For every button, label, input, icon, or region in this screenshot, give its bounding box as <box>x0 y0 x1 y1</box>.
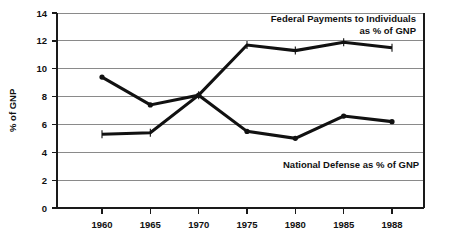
x-tick-label-1980: 1980 <box>285 219 306 230</box>
series-national-defense <box>99 74 394 140</box>
x-tick-label-1970: 1970 <box>188 219 209 230</box>
line-chart: 14 12 10 8 6 4 2 0 % of GNP 1960 1965 19… <box>0 0 457 251</box>
x-tick-label-1965: 1965 <box>140 219 162 230</box>
federal-annotation-line1: Federal Payments to Individuals <box>271 13 416 24</box>
data-point <box>293 136 298 141</box>
gridlines <box>57 13 424 180</box>
chart-container: 14 12 10 8 6 4 2 0 % of GNP 1960 1965 19… <box>0 0 457 251</box>
defense-annotation: National Defense as % of GNP <box>283 159 420 170</box>
y-tick-label-2: 2 <box>42 175 47 186</box>
series-line <box>102 42 392 134</box>
y-tick-label-14: 14 <box>36 8 47 19</box>
axes <box>57 13 424 208</box>
x-tick-label-1960: 1960 <box>91 219 112 230</box>
federal-annotation-line2: as % of GNP <box>360 25 417 36</box>
federal-annotation: Federal Payments to Individuals as % of … <box>271 13 417 36</box>
x-tickmarks <box>102 208 392 214</box>
data-point <box>244 129 249 134</box>
y-tick-label-10: 10 <box>36 63 47 74</box>
series-federal-payments <box>102 38 392 138</box>
x-tick-label-1985: 1985 <box>333 219 355 230</box>
y-tickmarks <box>52 13 57 208</box>
x-tick-labels: 1960 1965 1970 1975 1980 1985 1988 <box>91 219 402 230</box>
y-tick-label-0: 0 <box>42 203 47 214</box>
y-tick-label-8: 8 <box>42 91 47 102</box>
y-axis-label: % of GNP <box>7 88 18 132</box>
data-point <box>389 119 394 124</box>
y-tick-label-4: 4 <box>42 147 48 158</box>
y-tick-labels: 14 12 10 8 6 4 2 0 <box>36 8 47 214</box>
defense-annotation-line1: National Defense as % of GNP <box>283 159 420 170</box>
data-series-layer <box>99 38 394 141</box>
data-point <box>148 102 153 107</box>
x-tick-label-1988: 1988 <box>381 219 402 230</box>
y-tick-label-12: 12 <box>36 35 47 46</box>
data-point <box>341 113 346 118</box>
data-point <box>99 74 104 79</box>
y-tick-label-6: 6 <box>42 119 47 130</box>
data-point <box>196 93 201 98</box>
x-tick-label-1975: 1975 <box>236 219 258 230</box>
